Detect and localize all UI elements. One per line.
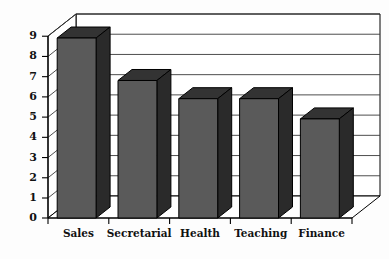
y-tick-label: 3: [29, 151, 37, 164]
y-tick-label: 7: [29, 70, 37, 83]
x-tick-label: Secretarial: [107, 227, 172, 239]
bar-teaching[interactable]: [240, 88, 293, 218]
y-tick-label: 9: [29, 29, 37, 42]
y-tick-label: 2: [29, 171, 37, 184]
bar-health[interactable]: [179, 88, 232, 218]
bar-front-face: [300, 119, 339, 218]
bar-front-face: [57, 38, 96, 218]
y-tick-label: 0: [29, 211, 37, 224]
bar-sales[interactable]: [57, 27, 110, 218]
y-tickmarks-group: [42, 36, 48, 218]
y-tick-label: 8: [29, 49, 37, 62]
x-tick-label: Sales: [63, 227, 94, 239]
y-tick-label: 5: [29, 110, 37, 123]
bar-side-face: [157, 69, 171, 218]
chart-canvas: 0 1 2 3 4 5 6 7 8 9: [0, 0, 389, 259]
y-tick-label: 6: [29, 90, 37, 103]
bar-side-face: [339, 108, 353, 218]
y-tick-label: 4: [29, 130, 37, 143]
bar-finance[interactable]: [300, 108, 353, 218]
x-tick-label: Finance: [298, 227, 345, 239]
bar-front-face: [179, 99, 218, 218]
x-tick-label: Health: [180, 227, 220, 239]
bar-chart-figure: 0 1 2 3 4 5 6 7 8 9: [0, 0, 389, 259]
bar-side-face: [96, 27, 110, 218]
bar-front-face: [118, 80, 157, 218]
bar-side-face: [218, 88, 232, 218]
y-tick-label: 1: [29, 191, 37, 204]
x-tick-label: Teaching: [234, 227, 288, 239]
bar-side-face: [279, 88, 293, 218]
bar-secretarial[interactable]: [118, 69, 171, 218]
x-tick-labels-group: Sales Secretarial Health Teaching Financ…: [63, 227, 345, 239]
y-tick-labels-group: 0 1 2 3 4 5 6 7 8 9: [29, 29, 37, 224]
bar-front-face: [240, 99, 279, 218]
x-tickmarks-group: [48, 218, 352, 224]
